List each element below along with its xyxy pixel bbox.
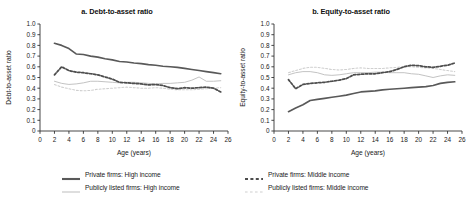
legend: Private firms: High income Private firms… xyxy=(0,168,468,203)
legend-swatch-solid-thin-icon xyxy=(62,183,80,193)
svg-text:10: 10 xyxy=(109,136,117,143)
series-line-private_high xyxy=(54,43,220,73)
svg-text:16: 16 xyxy=(386,136,394,143)
svg-text:0.1: 0.1 xyxy=(261,117,270,124)
svg-text:16: 16 xyxy=(152,136,160,143)
legend-swatch-solid-thick-icon xyxy=(62,170,80,180)
legend-item-private-middle: Private firms: Middle income xyxy=(245,170,349,180)
panel-a-plot: 00.10.20.30.40.50.60.70.80.91.0024681012… xyxy=(0,0,234,168)
svg-text:0.9: 0.9 xyxy=(27,31,36,38)
svg-text:0.8: 0.8 xyxy=(27,42,36,49)
svg-text:2: 2 xyxy=(53,136,57,143)
legend-item-listed-high: Publicly listed firms: High income xyxy=(62,183,245,193)
svg-text:0: 0 xyxy=(272,136,276,143)
svg-text:0.7: 0.7 xyxy=(27,52,36,59)
svg-text:0.5: 0.5 xyxy=(261,74,270,81)
svg-text:0.5: 0.5 xyxy=(27,74,36,81)
svg-text:0.2: 0.2 xyxy=(27,106,36,113)
legend-label-private-middle: Private firms: Middle income xyxy=(268,171,349,178)
series-line-private_middle xyxy=(288,63,454,89)
legend-row-2: Publicly listed firms: High income Publi… xyxy=(0,181,468,194)
panels-row: a. Debt-to-asset ratio 00.10.20.30.40.50… xyxy=(0,0,468,168)
svg-text:Age (years): Age (years) xyxy=(351,149,385,157)
svg-text:12: 12 xyxy=(123,136,131,143)
legend-item-listed-middle: Publicly listed firms: Middle income xyxy=(245,183,368,193)
series-line-private_high xyxy=(288,82,454,112)
svg-text:0.4: 0.4 xyxy=(27,85,36,92)
svg-text:4: 4 xyxy=(301,136,305,143)
svg-text:2: 2 xyxy=(287,136,291,143)
svg-text:0.2: 0.2 xyxy=(261,106,270,113)
legend-label-listed-middle: Publicly listed firms: Middle income xyxy=(268,184,368,191)
legend-label-listed-high: Publicly listed firms: High income xyxy=(85,184,180,191)
svg-text:20: 20 xyxy=(415,136,423,143)
legend-label-private-high: Private firms: High income xyxy=(85,171,161,178)
svg-text:24: 24 xyxy=(444,136,452,143)
svg-text:22: 22 xyxy=(196,136,204,143)
svg-text:20: 20 xyxy=(181,136,189,143)
svg-text:10: 10 xyxy=(343,136,351,143)
svg-text:14: 14 xyxy=(138,136,146,143)
svg-text:12: 12 xyxy=(357,136,365,143)
svg-text:Age (years): Age (years) xyxy=(117,149,151,157)
svg-text:1.0: 1.0 xyxy=(261,20,270,27)
svg-text:Debt-to-asset ratio: Debt-to-asset ratio xyxy=(5,50,12,105)
svg-text:6: 6 xyxy=(316,136,320,143)
svg-text:0.6: 0.6 xyxy=(261,63,270,70)
legend-swatch-dashed-thin-icon xyxy=(245,183,263,193)
panel-b-equity-to-asset: b. Equity-to-asset ratio 00.10.20.30.40.… xyxy=(234,0,468,168)
svg-text:26: 26 xyxy=(458,136,466,143)
figure-container: a. Debt-to-asset ratio 00.10.20.30.40.50… xyxy=(0,0,468,203)
legend-item-private-high: Private firms: High income xyxy=(62,170,245,180)
svg-text:0.4: 0.4 xyxy=(261,85,270,92)
svg-text:0.3: 0.3 xyxy=(27,95,36,102)
svg-text:0.7: 0.7 xyxy=(261,52,270,59)
svg-text:0: 0 xyxy=(266,127,270,134)
legend-swatch-dashed-thick-icon xyxy=(245,170,263,180)
svg-text:1.0: 1.0 xyxy=(27,20,36,27)
legend-row-1: Private firms: High income Private firms… xyxy=(0,168,468,181)
svg-text:14: 14 xyxy=(372,136,380,143)
svg-text:0.6: 0.6 xyxy=(27,63,36,70)
panel-a-debt-to-asset: a. Debt-to-asset ratio 00.10.20.30.40.50… xyxy=(0,0,234,168)
svg-text:6: 6 xyxy=(82,136,86,143)
svg-text:0: 0 xyxy=(32,127,36,134)
svg-text:18: 18 xyxy=(167,136,175,143)
svg-text:26: 26 xyxy=(224,136,232,143)
svg-text:24: 24 xyxy=(210,136,218,143)
svg-text:0.9: 0.9 xyxy=(261,31,270,38)
svg-text:4: 4 xyxy=(67,136,71,143)
svg-text:8: 8 xyxy=(96,136,100,143)
svg-text:0.3: 0.3 xyxy=(261,95,270,102)
svg-text:22: 22 xyxy=(430,136,438,143)
svg-text:18: 18 xyxy=(401,136,409,143)
svg-text:0.8: 0.8 xyxy=(261,42,270,49)
svg-text:0.1: 0.1 xyxy=(27,117,36,124)
svg-text:8: 8 xyxy=(330,136,334,143)
svg-text:0: 0 xyxy=(38,136,42,143)
svg-text:Equity-to-asset ratio: Equity-to-asset ratio xyxy=(239,48,247,107)
panel-b-plot: 00.10.20.30.40.50.60.70.80.91.0024681012… xyxy=(234,0,468,168)
